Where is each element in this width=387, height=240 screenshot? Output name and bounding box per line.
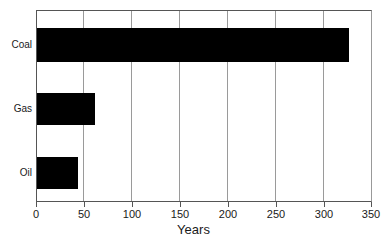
tick-label-200: 200 (219, 208, 237, 220)
plot-area (36, 10, 372, 202)
category-label-oil: Oil (0, 167, 32, 178)
tick-mark-100 (132, 202, 133, 207)
tick-label-0: 0 (33, 208, 39, 220)
tick-mark-50 (84, 202, 85, 207)
bar-gas (37, 93, 95, 125)
tick-label-150: 150 (171, 208, 189, 220)
tick-mark-200 (228, 202, 229, 207)
tick-label-50: 50 (78, 208, 90, 220)
tick-mark-0 (36, 202, 37, 207)
bar-chart: Coal Gas Oil 0 50 100 150 200 250 300 35… (0, 0, 387, 240)
tick-label-100: 100 (123, 208, 141, 220)
tick-label-350: 350 (362, 208, 380, 220)
x-axis-title: Years (0, 222, 387, 237)
category-label-gas: Gas (0, 103, 32, 114)
tick-mark-150 (180, 202, 181, 207)
tick-mark-300 (324, 202, 325, 207)
tick-mark-250 (276, 202, 277, 207)
bar-coal (37, 28, 349, 62)
category-label-coal: Coal (0, 39, 32, 50)
bar-oil (37, 157, 78, 189)
tick-label-300: 300 (315, 208, 333, 220)
tick-label-250: 250 (267, 208, 285, 220)
tick-mark-350 (371, 202, 372, 207)
